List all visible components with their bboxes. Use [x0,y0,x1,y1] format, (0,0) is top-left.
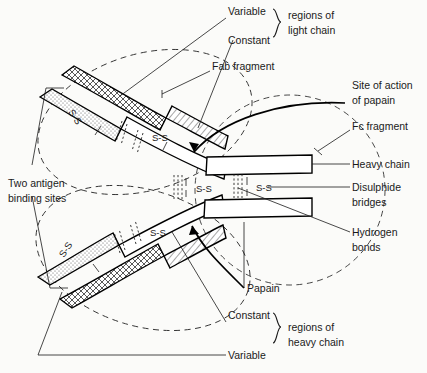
leader-fc-fragment [314,130,350,155]
ss-hinge-left: S-S [196,183,212,194]
label-two-antigen-2: binding sites [8,192,66,204]
label-constant-light: Constant [228,34,270,46]
ss-upper-mid: S-S [152,132,168,143]
label-fc-fragment: Fc fragment [352,120,408,132]
label-variable-light: Variable [228,5,266,17]
label-site-of-action-2: of papain [352,94,395,106]
label-regions-light-2: light chain [288,24,335,36]
leader-fab-fragment [162,71,210,98]
label-two-antigen-1: Two antigen [8,177,65,189]
label-regions-heavy-2: heavy chain [288,336,344,348]
label-regions-heavy-1: regions of [288,321,334,333]
label-hydrogen-2: bonds [352,241,381,253]
label-heavy-chain: Heavy chain [352,158,410,170]
label-disulphide-2: bridges [352,196,386,208]
label-regions-light-1: regions of [288,9,334,21]
ss-lower-tip: S-S [56,240,74,259]
bracket-light-chain [273,9,281,37]
label-variable-heavy: Variable [228,349,266,361]
label-fab-fragment: Fab fragment [212,60,275,72]
leader-variable-light [120,18,226,96]
label-papain: Papain [247,282,280,294]
heavy-chain-lower-tail [204,198,312,218]
label-disulphide-1: Disulphide [352,181,401,193]
ss-lower-mid: S-S [150,227,166,238]
heavy-chain-upper-tail [206,155,312,175]
leader-constant-light [198,40,233,128]
label-hydrogen-1: Hydrogen [352,226,398,238]
ss-hinge-right: S-S [256,182,272,193]
bracket-heavy-chain [273,313,281,343]
label-site-of-action-1: Site of action [352,79,413,91]
label-constant-heavy: Constant [228,309,270,321]
antibody-diagram: Variable Constant regions of light chain… [0,0,427,373]
